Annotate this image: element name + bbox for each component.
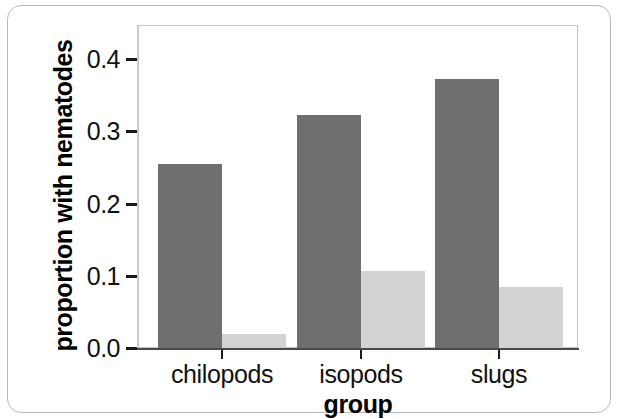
- bar-chilopods-dark: [158, 164, 222, 348]
- bar-isopods-light: [361, 271, 425, 348]
- x-tick-mark: [498, 350, 500, 359]
- y-tick-mark: [126, 203, 137, 206]
- x-tick-label-slugs: slugs: [414, 362, 584, 387]
- y-tick-mark: [126, 130, 137, 133]
- y-tick-mark: [126, 347, 137, 350]
- x-tick-mark: [221, 350, 223, 359]
- y-axis-title: proportion with nematodes: [51, 36, 76, 356]
- bar-slugs-dark: [435, 79, 499, 348]
- bar-chart: 0.00.10.20.30.4 chilopodsisopodsslugs pr…: [0, 0, 620, 419]
- x-axis-line: [137, 348, 579, 350]
- bar-slugs-light: [499, 287, 563, 348]
- bar-isopods-dark: [297, 115, 361, 348]
- y-axis-line: [137, 25, 138, 349]
- bar-chilopods-light: [222, 334, 286, 348]
- x-tick-mark: [360, 350, 362, 359]
- x-axis-title: group: [138, 392, 578, 417]
- y-tick-mark: [126, 58, 137, 61]
- y-tick-mark: [126, 275, 137, 278]
